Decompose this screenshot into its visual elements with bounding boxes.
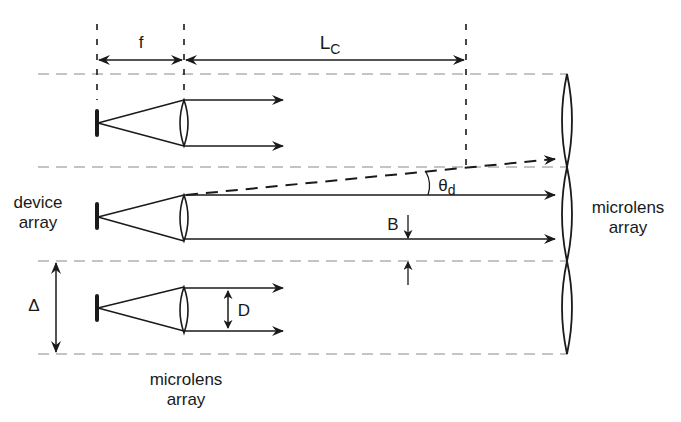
- theta-sub: d: [448, 182, 456, 198]
- microlens-left-line2: array: [136, 390, 236, 410]
- lens: [180, 287, 188, 333]
- lc-sub: C: [330, 41, 340, 57]
- top-channel: [97, 100, 283, 146]
- lc-label: LC: [310, 33, 350, 59]
- middle-channel: [97, 159, 555, 241]
- microlens-array-label-left: microlens array: [136, 370, 236, 410]
- d-label: D: [234, 301, 254, 321]
- microlens-right-line2: array: [578, 218, 678, 238]
- bottom-channel: [97, 287, 283, 333]
- lens: [180, 195, 188, 241]
- theta-d-label: θd: [430, 176, 464, 200]
- device-array-line1: device: [8, 193, 68, 213]
- lc-main: L: [320, 32, 331, 53]
- b-label: B: [383, 215, 403, 235]
- delta-label: Δ: [24, 296, 44, 316]
- channel-boundaries: [38, 74, 567, 354]
- microlens-array-label-right: microlens array: [578, 198, 678, 238]
- theta-main: θ: [438, 176, 447, 195]
- device-array-label: device array: [8, 193, 68, 233]
- reference-verticals: [97, 24, 466, 165]
- divergent-ray: [186, 159, 555, 195]
- microlens-left-line1: microlens: [136, 370, 236, 390]
- device-array-line2: array: [8, 213, 68, 233]
- lens: [180, 100, 188, 146]
- f-label: f: [131, 33, 151, 53]
- far-microlens-array: [562, 74, 572, 354]
- microlens-right-line1: microlens: [578, 198, 678, 218]
